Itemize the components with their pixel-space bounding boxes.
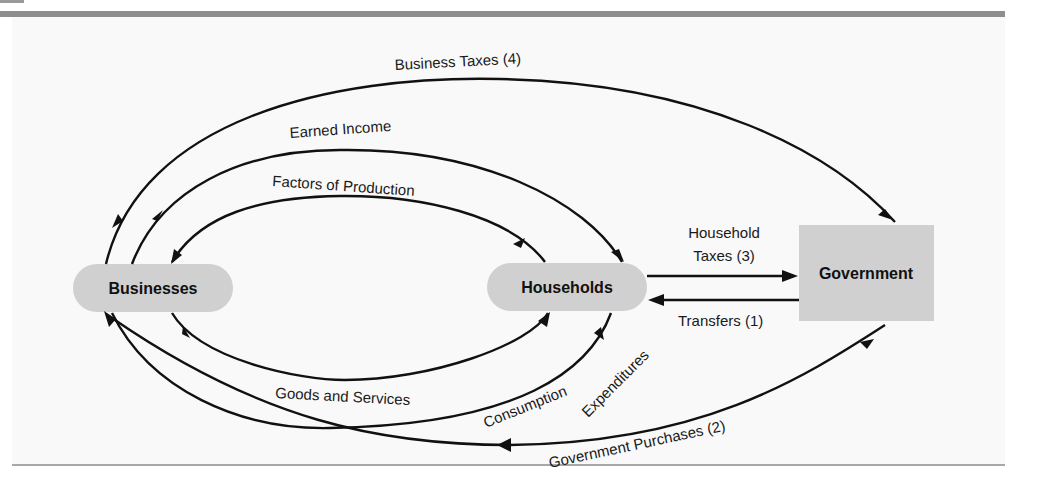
arrow-head-icon [497,438,511,452]
arrow-head-icon [611,249,624,262]
flow-factors-of-production: Factors of Production [171,172,545,264]
earned-income-label: Earned Income [289,117,392,141]
government-purchases-label: Government Purchases (2) [547,417,727,471]
businesses-node: Businesses [73,264,233,312]
business-taxes-label: Business Taxes (4) [394,49,521,73]
circular-flow-diagram: Businesses Households Government Busines… [0,0,1039,501]
households-label: Households [521,279,613,296]
flow-household-taxes: Household Taxes (3) [647,224,798,282]
arrow-head-icon [878,209,893,220]
flow-business-taxes: Business Taxes (4) [106,49,895,264]
flow-goods-and-services: Goods and Services [172,312,550,408]
household-taxes-label-line1: Household [688,224,760,241]
arrow-head-icon [648,294,664,306]
government-node: Government [799,225,934,321]
government-label: Government [819,265,914,282]
flow-government-purchases: Government Purchases (2) [112,318,885,471]
household-taxes-label-line2: Taxes (3) [693,247,755,264]
flow-transfers: Transfers (1) [648,294,799,329]
arrow-head-icon [513,238,525,248]
goods-and-services-label: Goods and Services [275,384,411,408]
expenditures-label: Expenditures [578,346,652,420]
households-node: Households [487,263,647,311]
arrow-head-icon [112,214,123,228]
transfers-label: Transfers (1) [678,312,763,329]
arrow-head-icon [538,312,550,327]
businesses-label: Businesses [109,280,198,297]
arrow-head-icon [782,270,798,282]
